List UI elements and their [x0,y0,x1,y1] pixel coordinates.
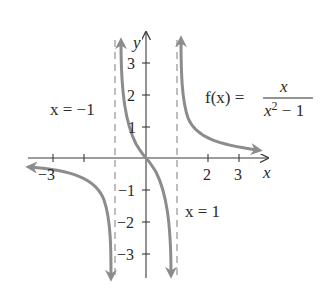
asymptote-label-x-1: x = 1 [185,202,220,221]
x-axis-label: x [262,163,271,182]
y-tick-labels: 3 2 1 −1 −2 −3 [117,55,136,263]
y-tick-label-minus-1: −1 [118,182,135,199]
x-tick-label-2: 2 [203,166,211,183]
y-tick-label-minus-3: −3 [117,246,134,263]
x-tick-label-minus-3: −3 [38,166,55,183]
x-tick-label-3: 3 [234,166,242,183]
function-graph: y x 3 2 1 −1 −2 −3 −3 2 3 x = −1 x = 1 f… [0,0,326,290]
formula-denominator: x2 − 1 [263,99,304,120]
y-tick-label-3: 3 [127,55,135,72]
y-tick-label-2: 2 [127,87,135,104]
formula-numerator: x [279,77,288,96]
curve-branch-left [30,167,111,277]
formula-lhs: f(x) = [205,88,244,107]
x-tick-labels: −3 2 3 [38,166,242,183]
y-tick-label-1: 1 [128,119,136,136]
y-axis-label: y [131,33,141,52]
asymptote-label-x-minus-1: x = −1 [50,100,95,119]
function-formula: f(x) = x x2 − 1 [205,77,313,120]
y-tick-label-minus-2: −2 [117,214,134,231]
